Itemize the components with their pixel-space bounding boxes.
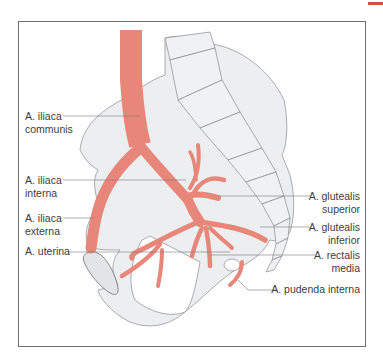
label-line: inferior	[309, 234, 360, 247]
label-pudenda-interna: A. pudenda interna	[271, 283, 360, 296]
artery-iliaca-communis	[131, 30, 140, 145]
label-line: interna	[25, 187, 62, 200]
label-line: A. iliaca	[25, 212, 62, 225]
pubic-bone	[83, 252, 118, 295]
label-line: A. iliaca	[25, 110, 73, 123]
label-line: A. glutealis	[309, 190, 360, 203]
label-line: A. pudenda interna	[271, 283, 360, 296]
label-line: A. glutealis	[309, 221, 360, 234]
label-line: communis	[25, 123, 73, 136]
label-iliaca-communis: A. iliaca communis	[25, 110, 73, 136]
label-line: A. rectalis	[314, 249, 360, 262]
label-iliaca-interna: A. iliaca interna	[25, 174, 62, 200]
label-iliaca-externa: A. iliaca externa	[25, 212, 62, 238]
label-line: superior	[309, 203, 360, 216]
label-line: A. iliaca	[25, 174, 62, 187]
label-line: media	[314, 262, 360, 275]
label-rectalis-media: A. rectalis media	[314, 249, 360, 275]
label-glutealis-inferior: A. glutealis inferior	[309, 221, 360, 247]
label-line: A. uterina	[25, 245, 70, 258]
label-line: externa	[25, 225, 62, 238]
label-glutealis-superior: A. glutealis superior	[309, 190, 360, 216]
label-uterina: A. uterina	[25, 245, 70, 258]
